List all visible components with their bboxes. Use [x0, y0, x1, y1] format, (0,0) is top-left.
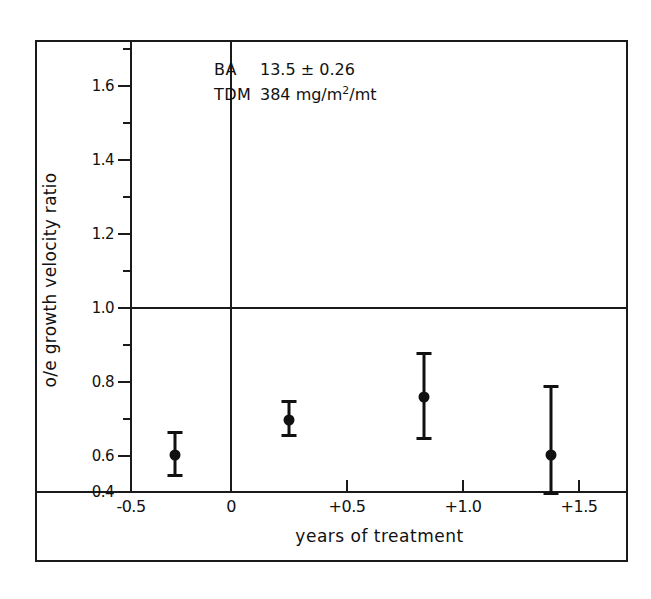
error-bar-cap-lower — [544, 492, 559, 495]
x-tick-label: 0 — [196, 497, 266, 516]
data-point — [546, 450, 557, 461]
y-tick-label: 1.6 — [70, 77, 114, 95]
x-tick-label: +0.5 — [312, 497, 382, 516]
x-tick-label: -0.5 — [96, 497, 166, 516]
error-bar-cap-lower — [416, 437, 431, 440]
x-tick-label: +1.5 — [544, 497, 614, 516]
data-point — [284, 414, 295, 425]
error-bar-cap-upper — [416, 352, 431, 355]
y-tick-label: 1.0 — [70, 299, 114, 317]
chart-figure: 1.6 1.4 1.2 1.0 0.8 0.6 0.4 -0.5 0 +0.5 … — [0, 0, 651, 599]
y-axis-title: o/e growth velocity ratio — [40, 150, 60, 410]
y-tick-label: 0.8 — [70, 373, 114, 391]
y-tick-label: 0.6 — [70, 447, 114, 465]
data-marks-layer — [131, 41, 628, 492]
error-bar-cap-lower — [282, 434, 297, 437]
y-tick-label: 1.4 — [70, 151, 114, 169]
data-point — [418, 391, 429, 402]
error-bar-cap-lower — [168, 474, 183, 477]
error-bar — [550, 385, 553, 495]
error-bar-cap-upper — [282, 400, 297, 403]
x-axis-title: years of treatment — [131, 526, 628, 546]
error-bar-cap-upper — [168, 431, 183, 434]
y-tick-label: 1.2 — [70, 225, 114, 243]
x-tick-label: +1.0 — [428, 497, 498, 516]
data-point — [170, 450, 181, 461]
error-bar-cap-upper — [544, 385, 559, 388]
